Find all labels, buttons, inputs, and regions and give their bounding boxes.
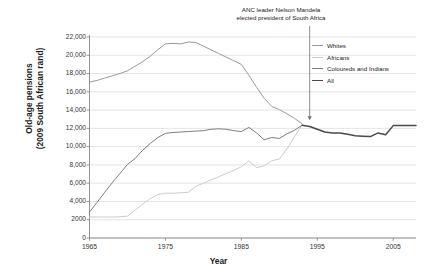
y-tick-label: 8,000 — [40, 161, 86, 168]
x-axis-title: Year — [0, 256, 437, 266]
x-tick-label: 1995 — [297, 243, 337, 250]
legend-item-coloureds-and-indians[interactable]: Coloureds and Indians — [312, 63, 434, 75]
y-tick-label: 22,000 — [40, 33, 86, 40]
series-line-coloureds-and-indians — [90, 125, 303, 212]
series-line-whites — [90, 42, 303, 124]
legend-swatch-whites — [312, 45, 323, 46]
legend-label-whites: Whites — [327, 42, 346, 49]
y-tick-label: 4,000 — [40, 197, 86, 204]
x-tick-label: 1975 — [145, 243, 185, 250]
chart-legend: Whites Africans Coloureds and Indians Al… — [312, 40, 434, 86]
y-tick-label: 2000 — [40, 215, 86, 222]
series-line-all — [302, 125, 416, 136]
x-tick-label: 2005 — [373, 243, 413, 250]
legend-item-all[interactable]: All — [312, 75, 434, 87]
x-tick-label: 1985 — [221, 243, 261, 250]
legend-item-whites[interactable]: Whites — [312, 40, 434, 52]
y-axis-title: Old-age pensions (2009 South African ran… — [24, 19, 45, 179]
y-tick-label: 10,000 — [40, 142, 86, 149]
legend-swatch-all — [312, 80, 323, 81]
legend-label-coloureds-and-indians: Coloureds and Indians — [327, 65, 389, 72]
legend-swatch-africans — [312, 57, 323, 58]
legend-swatch-coloureds-and-indians — [312, 68, 323, 69]
y-tick-label: 6,000 — [40, 179, 86, 186]
chart-figure: ANC leader Nelson Mandela elected presid… — [0, 0, 437, 277]
y-tick-label: 18,000 — [40, 69, 86, 76]
x-tick-label: 1965 — [70, 243, 110, 250]
y-tick-label: 16,000 — [40, 88, 86, 95]
legend-label-all: All — [327, 77, 334, 84]
y-tick-label: 12,000 — [40, 124, 86, 131]
legend-label-africans: Africans — [327, 54, 349, 61]
y-tick-label: 0 — [40, 234, 86, 241]
y-tick-label: 20,000 — [40, 51, 86, 58]
legend-item-africans[interactable]: Africans — [312, 52, 434, 64]
y-tick-label: 14,000 — [40, 106, 86, 113]
annotation-label: ANC leader Nelson Mandela elected presid… — [196, 6, 366, 22]
